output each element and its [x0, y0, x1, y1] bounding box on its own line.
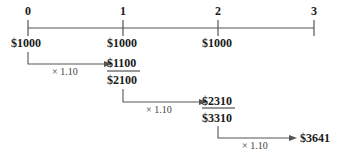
multiplier-3: × 1.10 [242, 140, 268, 151]
result-3: $3641 [300, 131, 330, 146]
diagram-lines [0, 0, 343, 154]
arrow-2-path [123, 89, 200, 102]
arrow-3-path [218, 126, 290, 138]
multiplier-2: × 1.10 [146, 104, 172, 115]
deposit-0: $1000 [11, 36, 41, 51]
deposit-2: $1000 [202, 36, 232, 51]
period-label-3: 3 [311, 4, 317, 19]
deposit-1: $1000 [107, 36, 137, 51]
result-1: $1100 [107, 56, 136, 71]
sum-2: $3310 [202, 111, 232, 126]
period-label-2: 2 [215, 4, 221, 19]
arrow-1-path [28, 52, 105, 64]
sum-1: $2100 [107, 73, 137, 88]
arrow-3-head-icon [289, 135, 297, 141]
result-2: $2310 [202, 94, 232, 109]
multiplier-1: × 1.10 [52, 66, 78, 77]
period-label-0: 0 [25, 4, 31, 19]
period-label-1: 1 [120, 4, 126, 19]
